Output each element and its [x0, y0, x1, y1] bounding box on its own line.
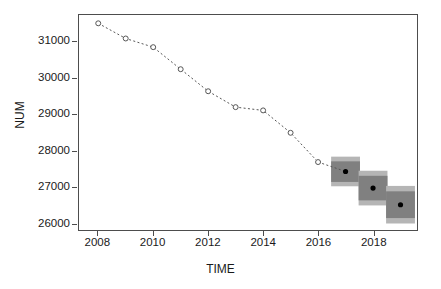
data-point-marker [178, 67, 183, 72]
x-tick-label: 2010 [140, 237, 166, 249]
y-tick-mark [72, 78, 77, 79]
forecast-point-marker [370, 186, 375, 191]
y-tick-mark [72, 187, 77, 188]
x-tick-label: 2018 [361, 237, 387, 249]
data-point-marker [151, 45, 156, 50]
y-axis-title: NUM [13, 85, 27, 145]
y-tick-mark [72, 114, 77, 115]
x-tick-mark [318, 231, 319, 236]
y-tick-label: 30000 [38, 72, 70, 84]
x-tick-label: 2012 [195, 237, 221, 249]
forecast-point-marker [343, 169, 348, 174]
data-point-marker [96, 21, 101, 26]
y-tick-label: 29000 [38, 109, 70, 121]
x-tick-mark [153, 231, 154, 236]
y-tick-label: 26000 [38, 218, 70, 230]
x-tick-mark [208, 231, 209, 236]
x-axis-title: TIME [0, 262, 441, 276]
forecast-point-marker [398, 202, 403, 207]
chart-container: 260002700028000290003000031000 200820102… [0, 0, 441, 289]
data-point-marker [206, 89, 211, 94]
y-tick-mark [72, 224, 77, 225]
x-tick-mark [374, 231, 375, 236]
chart-canvas [79, 15, 417, 230]
y-tick-mark [72, 41, 77, 42]
data-point-marker [316, 160, 321, 165]
data-point-marker [261, 108, 266, 113]
x-tick-label: 2016 [306, 237, 332, 249]
x-tick-label: 2014 [250, 237, 276, 249]
y-axis-tick-labels: 260002700028000290003000031000 [0, 0, 70, 289]
x-tick-label: 2008 [85, 237, 111, 249]
y-tick-mark [72, 151, 77, 152]
data-point-marker [233, 105, 238, 110]
plot-area [78, 14, 418, 231]
y-tick-label: 28000 [38, 145, 70, 157]
data-point-marker [123, 36, 128, 41]
y-tick-label: 27000 [38, 181, 70, 193]
y-tick-label: 31000 [38, 36, 70, 48]
x-tick-mark [263, 231, 264, 236]
data-point-marker [288, 130, 293, 135]
x-tick-mark [97, 231, 98, 236]
